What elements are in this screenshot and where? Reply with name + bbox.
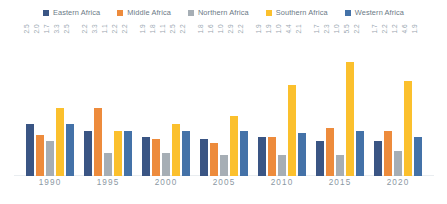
bar[interactable]	[220, 155, 228, 176]
bar[interactable]	[26, 124, 34, 176]
bar[interactable]	[298, 133, 306, 176]
bar-item[interactable]: 1.0	[278, 30, 286, 176]
bar[interactable]	[124, 131, 132, 176]
legend-item-northern-africa[interactable]: Northern Africa	[188, 8, 249, 17]
bar[interactable]	[56, 108, 64, 176]
x-axis-tick-label: 1995	[80, 178, 136, 187]
bar[interactable]	[152, 139, 160, 176]
bar[interactable]	[230, 116, 238, 176]
bar[interactable]	[326, 128, 334, 176]
legend-swatch-icon	[188, 10, 194, 16]
bar-value-label: 2.5	[23, 24, 30, 33]
bar-item[interactable]: 1.7	[374, 30, 382, 176]
bar-item[interactable]: 1.8	[200, 30, 208, 176]
bar[interactable]	[336, 155, 344, 176]
bar[interactable]	[94, 108, 102, 176]
bar[interactable]	[374, 141, 382, 176]
bar-item[interactable]: 2.5	[66, 30, 74, 176]
bar[interactable]	[66, 124, 74, 176]
bar-item[interactable]: 1.9	[268, 30, 276, 176]
bar-item[interactable]: 4.6	[404, 30, 412, 176]
bar[interactable]	[84, 131, 92, 176]
bar[interactable]	[210, 143, 218, 176]
bar-item[interactable]: 2.2	[124, 30, 132, 176]
bar-value-label: 1.9	[139, 24, 146, 33]
bar-value-label: 2.3	[323, 24, 330, 33]
bar[interactable]	[384, 131, 392, 176]
legend-swatch-icon	[345, 10, 351, 16]
bar-value-label: 2.2	[237, 24, 244, 33]
bar[interactable]	[414, 137, 422, 176]
bar-item[interactable]: 1.1	[104, 30, 112, 176]
bar[interactable]	[288, 85, 296, 176]
bar[interactable]	[258, 137, 266, 176]
bar[interactable]	[404, 81, 412, 176]
bar-item[interactable]: 1.8	[152, 30, 160, 176]
x-axis: 1990199520002005201020152020	[0, 178, 447, 198]
bar-item[interactable]: 2.5	[172, 30, 180, 176]
bar-item[interactable]: 3.3	[56, 30, 64, 176]
bar[interactable]	[182, 131, 190, 176]
bar-item[interactable]: 2.2	[84, 30, 92, 176]
bar[interactable]	[114, 131, 122, 176]
bar-item[interactable]: 3.3	[94, 30, 102, 176]
legend-item-western-africa[interactable]: Western Africa	[345, 8, 404, 17]
bar-value-label: 1.0	[333, 24, 340, 33]
legend-swatch-icon	[43, 10, 49, 16]
bar-item[interactable]: 2.0	[36, 30, 44, 176]
bar-item[interactable]: 2.2	[356, 30, 364, 176]
bar-item[interactable]: 2.2	[182, 30, 190, 176]
bar-value-label: 3.3	[53, 24, 60, 33]
bar-item[interactable]: 1.9	[258, 30, 266, 176]
x-axis-tick-label: 2005	[196, 178, 252, 187]
bar-item[interactable]: 2.9	[230, 30, 238, 176]
chart-legend: Eastern Africa Middle Africa Northern Af…	[0, 8, 447, 17]
bar-value-label: 1.1	[101, 24, 108, 33]
bar-item[interactable]: 1.6	[210, 30, 218, 176]
bar-item[interactable]: 1.0	[336, 30, 344, 176]
bar-group: 1.91.81.12.52.2	[138, 30, 194, 176]
bar[interactable]	[200, 139, 208, 176]
bar-item[interactable]: 2.5	[26, 30, 34, 176]
bar[interactable]	[172, 124, 180, 176]
legend-item-eastern-africa[interactable]: Eastern Africa	[43, 8, 100, 17]
bar-item[interactable]: 1.9	[142, 30, 150, 176]
bar[interactable]	[142, 137, 150, 176]
bar-item[interactable]: 1.2	[394, 30, 402, 176]
bar-item[interactable]: 2.3	[326, 30, 334, 176]
bar-item[interactable]: 4.4	[288, 30, 296, 176]
bar[interactable]	[268, 137, 276, 176]
bar[interactable]	[278, 155, 286, 176]
bar[interactable]	[240, 131, 248, 176]
x-axis-tick-label: 2000	[138, 178, 194, 187]
legend-label: Middle Africa	[127, 8, 171, 17]
bar-item[interactable]: 2.2	[240, 30, 248, 176]
bar-group: 1.72.31.05.52.2	[312, 30, 368, 176]
legend-label: Southern Africa	[276, 8, 328, 17]
bar-group: 2.52.01.73.32.5	[22, 30, 78, 176]
bar[interactable]	[356, 131, 364, 176]
bar-item[interactable]: 2.2	[114, 30, 122, 176]
bar[interactable]	[46, 141, 54, 176]
bar-value-label: 2.5	[63, 24, 70, 33]
bar-item[interactable]: 1.0	[220, 30, 228, 176]
bar[interactable]	[162, 153, 170, 176]
legend-item-southern-africa[interactable]: Southern Africa	[266, 8, 328, 17]
legend-item-middle-africa[interactable]: Middle Africa	[117, 8, 171, 17]
bar-value-label: 2.2	[179, 24, 186, 33]
bar-value-label: 2.0	[33, 24, 40, 33]
bar-item[interactable]: 1.1	[162, 30, 170, 176]
bar-item[interactable]: 2.2	[384, 30, 392, 176]
bar[interactable]	[394, 151, 402, 176]
bar-item[interactable]: 1.7	[46, 30, 54, 176]
bar-item[interactable]: 1.7	[316, 30, 324, 176]
bar-item[interactable]: 2.1	[298, 30, 306, 176]
bar[interactable]	[36, 135, 44, 176]
bar[interactable]	[316, 141, 324, 176]
bar-item[interactable]: 5.5	[346, 30, 354, 176]
bar[interactable]	[346, 62, 354, 176]
bar-value-label: 1.7	[313, 24, 320, 33]
bar[interactable]	[104, 153, 112, 176]
bar-value-label: 1.1	[159, 24, 166, 33]
bar-item[interactable]: 1.9	[414, 30, 422, 176]
